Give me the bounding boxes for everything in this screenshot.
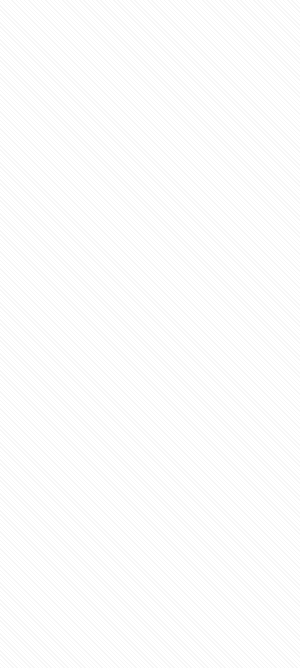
figure-sheet: [0, 0, 300, 668]
scan-noise-overlay: [0, 0, 300, 668]
